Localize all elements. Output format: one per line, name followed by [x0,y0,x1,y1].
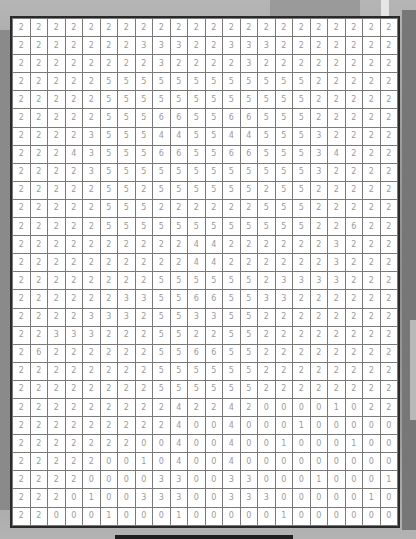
grid-cell[interactable]: 2 [65,109,83,127]
grid-cell[interactable]: 0 [118,489,136,507]
grid-cell[interactable]: 0 [310,398,328,416]
grid-cell[interactable]: 0 [240,453,258,471]
grid-cell[interactable]: 2 [328,199,346,217]
grid-cell[interactable]: 5 [258,127,276,145]
grid-cell[interactable]: 3 [258,290,276,308]
grid-cell[interactable]: 5 [223,272,241,290]
grid-cell[interactable]: 4 [170,453,188,471]
grid-cell[interactable]: 2 [258,254,276,272]
grid-cell[interactable]: 2 [205,37,223,55]
grid-cell[interactable]: 2 [30,435,48,453]
grid-cell[interactable]: 5 [258,145,276,163]
grid-cell[interactable]: 2 [13,435,31,453]
grid-cell[interactable]: 2 [83,19,101,37]
grid-cell[interactable]: 5 [223,181,241,199]
grid-cell[interactable]: 5 [170,181,188,199]
grid-cell[interactable]: 1 [275,507,293,525]
grid-cell[interactable]: 2 [118,272,136,290]
grid-cell[interactable]: 2 [118,380,136,398]
grid-cell[interactable]: 2 [293,19,311,37]
grid-cell[interactable]: 0 [363,417,381,435]
grid-cell[interactable]: 4 [223,417,241,435]
grid-cell[interactable]: 2 [363,91,381,109]
grid-cell[interactable]: 2 [153,417,171,435]
grid-cell[interactable]: 2 [153,199,171,217]
grid-cell[interactable]: 2 [293,236,311,254]
grid-cell[interactable]: 5 [100,127,118,145]
grid-cell[interactable]: 0 [258,398,276,416]
grid-cell[interactable]: 4 [170,127,188,145]
grid-cell[interactable]: 5 [205,163,223,181]
grid-cell[interactable]: 4 [223,453,241,471]
grid-cell[interactable]: 4 [170,417,188,435]
grid-cell[interactable]: 2 [13,145,31,163]
grid-cell[interactable]: 2 [30,308,48,326]
grid-cell[interactable]: 5 [275,163,293,181]
grid-cell[interactable]: 6 [188,344,206,362]
grid-cell[interactable]: 5 [170,344,188,362]
grid-cell[interactable]: 2 [258,344,276,362]
grid-cell[interactable]: 2 [48,417,66,435]
grid-cell[interactable]: 0 [118,507,136,525]
grid-cell[interactable]: 2 [363,290,381,308]
grid-cell[interactable]: 5 [293,109,311,127]
grid-cell[interactable]: 2 [310,344,328,362]
grid-cell[interactable]: 5 [240,73,258,91]
grid-cell[interactable]: 5 [135,218,153,236]
grid-cell[interactable]: 5 [275,127,293,145]
grid-cell[interactable]: 0 [223,507,241,525]
grid-cell[interactable]: 2 [30,417,48,435]
grid-cell[interactable]: 2 [118,254,136,272]
grid-cell[interactable]: 2 [13,471,31,489]
grid-cell[interactable]: 2 [30,218,48,236]
grid-cell[interactable]: 5 [170,272,188,290]
grid-cell[interactable]: 5 [188,163,206,181]
grid-cell[interactable]: 5 [188,127,206,145]
grid-cell[interactable]: 2 [363,55,381,73]
grid-cell[interactable]: 2 [48,127,66,145]
grid-cell[interactable]: 2 [328,73,346,91]
grid-cell[interactable]: 2 [30,109,48,127]
grid-cell[interactable]: 4 [223,398,241,416]
grid-cell[interactable]: 2 [118,326,136,344]
grid-cell[interactable]: 2 [363,37,381,55]
grid-cell[interactable]: 3 [310,163,328,181]
grid-cell[interactable]: 2 [13,73,31,91]
grid-cell[interactable]: 6 [223,145,241,163]
grid-cell[interactable]: 2 [30,163,48,181]
grid-cell[interactable]: 0 [258,471,276,489]
grid-cell[interactable]: 0 [118,471,136,489]
grid-cell[interactable]: 0 [240,417,258,435]
grid-cell[interactable]: 1 [275,435,293,453]
grid-cell[interactable]: 2 [380,127,398,145]
grid-cell[interactable]: 5 [293,181,311,199]
grid-cell[interactable]: 2 [170,254,188,272]
grid-cell[interactable]: 1 [310,471,328,489]
grid-cell[interactable]: 0 [275,471,293,489]
grid-cell[interactable]: 2 [13,181,31,199]
grid-cell[interactable]: 2 [65,362,83,380]
grid-cell[interactable]: 2 [13,127,31,145]
grid-cell[interactable]: 2 [13,199,31,217]
grid-cell[interactable]: 2 [48,435,66,453]
grid-cell[interactable]: 2 [380,109,398,127]
grid-cell[interactable]: 2 [100,290,118,308]
grid-cell[interactable]: 2 [328,308,346,326]
grid-cell[interactable]: 2 [275,344,293,362]
grid-cell[interactable]: 2 [188,326,206,344]
grid-cell[interactable]: 2 [293,254,311,272]
grid-cell[interactable]: 2 [135,326,153,344]
grid-cell[interactable]: 2 [275,254,293,272]
grid-cell[interactable]: 5 [188,73,206,91]
grid-cell[interactable]: 2 [328,55,346,73]
grid-cell[interactable]: 2 [65,290,83,308]
grid-cell[interactable]: 5 [293,199,311,217]
grid-cell[interactable]: 3 [310,145,328,163]
grid-cell[interactable]: 3 [83,145,101,163]
grid-cell[interactable]: 2 [293,380,311,398]
grid-cell[interactable]: 3 [258,37,276,55]
grid-cell[interactable]: 0 [188,489,206,507]
grid-cell[interactable]: 2 [223,254,241,272]
grid-cell[interactable]: 2 [118,236,136,254]
grid-cell[interactable]: 0 [345,507,363,525]
